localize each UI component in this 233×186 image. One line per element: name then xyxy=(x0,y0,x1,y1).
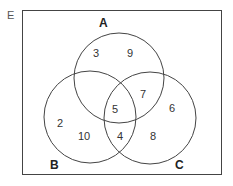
set-a-circle xyxy=(74,33,164,123)
venn-diagram: E A B C 3 9 7 5 2 10 4 6 8 xyxy=(0,0,233,186)
region-b-only-left: 2 xyxy=(57,117,63,129)
region-c-only-lower: 8 xyxy=(150,130,156,142)
universe-label: E xyxy=(7,9,14,21)
region-a-and-c: 7 xyxy=(140,88,146,100)
set-c-circle xyxy=(104,72,196,164)
set-a-label: A xyxy=(99,16,108,30)
region-a-b-c: 5 xyxy=(112,103,118,115)
region-b-only-right: 10 xyxy=(78,130,90,142)
region-a-only-right: 9 xyxy=(127,47,133,59)
region-b-and-c: 4 xyxy=(117,130,123,142)
set-c-label: C xyxy=(175,158,184,172)
region-a-only-left: 3 xyxy=(93,47,99,59)
set-b-label: B xyxy=(50,158,59,172)
region-c-only-upper: 6 xyxy=(169,102,175,114)
